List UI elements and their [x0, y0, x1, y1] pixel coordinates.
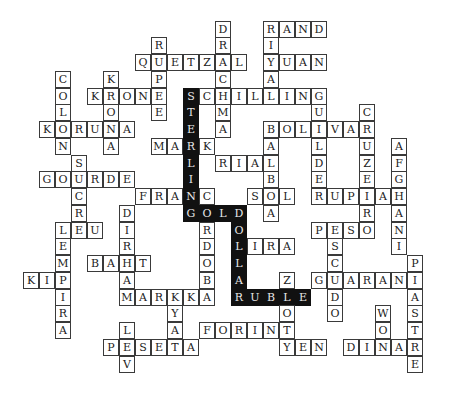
- grid-cell: E: [295, 339, 311, 356]
- grid-cell: O: [55, 88, 71, 105]
- grid-cell: M: [55, 255, 71, 272]
- grid-cell: A: [103, 138, 119, 155]
- grid-cell: U: [151, 54, 167, 71]
- grid-cell: L: [231, 54, 247, 71]
- grid-cell: E: [295, 289, 311, 306]
- grid-cell: A: [103, 255, 119, 272]
- grid-cell: Y: [263, 54, 279, 71]
- grid-cell: I: [231, 88, 247, 105]
- grid-cell: H: [119, 255, 135, 272]
- grid-cell: L: [279, 188, 295, 205]
- grid-cell: R: [103, 88, 119, 105]
- grid-cell: T: [135, 255, 151, 272]
- grid-cell: U: [87, 222, 103, 239]
- grid-cell: O: [215, 322, 231, 339]
- grid-cell: T: [279, 322, 295, 339]
- grid-cell: A: [295, 54, 311, 71]
- grid-cell: R: [215, 155, 231, 172]
- grid-cell: R: [359, 205, 375, 222]
- grid-cell: U: [311, 104, 327, 121]
- grid-cell: N: [263, 322, 279, 339]
- grid-cell: T: [183, 104, 199, 121]
- grid-cell: U: [279, 54, 295, 71]
- grid-cell: Q: [135, 54, 151, 71]
- grid-cell: D: [311, 155, 327, 172]
- grid-cell: A: [215, 121, 231, 138]
- grid-cell: K: [23, 272, 39, 289]
- grid-cell: N: [391, 272, 407, 289]
- grid-cell: R: [183, 138, 199, 155]
- grid-cell: Y: [167, 305, 183, 322]
- grid-cell: A: [167, 188, 183, 205]
- grid-cell: E: [183, 121, 199, 138]
- grid-cell: S: [343, 222, 359, 239]
- grid-cell: O: [119, 88, 135, 105]
- grid-cell: N: [375, 339, 391, 356]
- grid-cell: W: [375, 305, 391, 322]
- grid-cell: L: [231, 238, 247, 255]
- grid-cell: A: [167, 138, 183, 155]
- grid-cell: L: [55, 104, 71, 121]
- grid-cell: L: [247, 88, 263, 105]
- grid-cell: E: [167, 54, 183, 71]
- grid-cell: O: [199, 255, 215, 272]
- grid-cell: K: [39, 121, 55, 138]
- grid-cell: U: [71, 171, 87, 188]
- grid-cell: L: [263, 155, 279, 172]
- grid-cell: R: [215, 37, 231, 54]
- grid-cell: E: [55, 238, 71, 255]
- grid-cell: I: [359, 339, 375, 356]
- grid-cell: A: [391, 339, 407, 356]
- grid-cell: E: [71, 222, 87, 239]
- grid-cell: B: [87, 255, 103, 272]
- grid-cell: A: [199, 289, 215, 306]
- grid-cell: B: [263, 289, 279, 306]
- grid-cell: O: [103, 104, 119, 121]
- grid-cell: N: [311, 339, 327, 356]
- grid-cell: O: [279, 121, 295, 138]
- grid-cell: T: [407, 322, 423, 339]
- grid-cell: N: [135, 88, 151, 105]
- grid-cell: E: [119, 171, 135, 188]
- grid-cell: R: [199, 222, 215, 239]
- grid-cell: R: [55, 305, 71, 322]
- grid-cell: Z: [199, 54, 215, 71]
- grid-cell: N: [295, 21, 311, 38]
- grid-cell: A: [183, 339, 199, 356]
- grid-cell: U: [327, 188, 343, 205]
- grid-cell: L: [295, 121, 311, 138]
- grid-cell: A: [343, 272, 359, 289]
- grid-cell: A: [263, 71, 279, 88]
- grid-cell: E: [311, 171, 327, 188]
- grid-cell: E: [151, 104, 167, 121]
- grid-cell: L: [55, 222, 71, 239]
- grid-cell: U: [327, 272, 343, 289]
- grid-cell: O: [359, 222, 375, 239]
- grid-cell: A: [375, 272, 391, 289]
- grid-cell: R: [151, 289, 167, 306]
- grid-cell: A: [167, 322, 183, 339]
- grid-cell: L: [311, 138, 327, 155]
- grid-cell: R: [151, 188, 167, 205]
- grid-cell: P: [103, 339, 119, 356]
- grid-cell: I: [359, 188, 375, 205]
- grid-cell: O: [263, 188, 279, 205]
- grid-cell: U: [247, 289, 263, 306]
- grid-cell: O: [375, 322, 391, 339]
- grid-cell: N: [103, 121, 119, 138]
- grid-cell: G: [391, 171, 407, 188]
- grid-cell: I: [231, 155, 247, 172]
- grid-cell: N: [391, 222, 407, 239]
- grid-cell: A: [279, 21, 295, 38]
- grid-cell: O: [279, 305, 295, 322]
- grid-cell: E: [359, 171, 375, 188]
- grid-cell: R: [231, 322, 247, 339]
- grid-cell: S: [247, 188, 263, 205]
- grid-cell: T: [183, 54, 199, 71]
- grid-cell: I: [183, 171, 199, 188]
- grid-cell: D: [119, 205, 135, 222]
- grid-cell: Z: [359, 155, 375, 172]
- grid-cell: N: [311, 54, 327, 71]
- grid-cell: Y: [279, 339, 295, 356]
- grid-cell: O: [199, 205, 215, 222]
